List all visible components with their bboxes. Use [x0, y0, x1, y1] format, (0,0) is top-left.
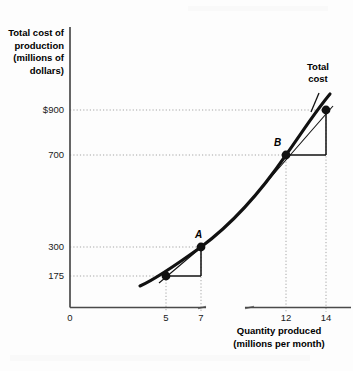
marker-14-900	[322, 106, 331, 115]
origin-label: 0	[60, 312, 80, 323]
x-axis-title-line-1: Quantity produced	[206, 325, 352, 338]
y-tick-label-700: 700	[20, 149, 64, 160]
y-tick-label-175: 175	[20, 270, 64, 281]
total-cost-curve	[140, 94, 330, 286]
y-tick-label-900: $900	[20, 104, 64, 115]
x-axis-title: Quantity produced (millions per month)	[206, 325, 352, 350]
series-label-line-2: cost	[296, 73, 340, 85]
y-axis-title: Total cost of production (millions of do…	[2, 27, 64, 77]
y-axis-title-line-4: dollars)	[2, 65, 64, 78]
data-point-markers	[162, 106, 331, 281]
x-axis-title-line-2: (millions per month)	[206, 338, 352, 351]
series-label-total-cost: Total cost	[296, 61, 340, 84]
marker-5-175	[162, 272, 171, 281]
y-axis-title-line-3: (millions of	[2, 52, 64, 65]
annotation-label-b: B	[274, 137, 281, 148]
x-tick-label-5: 5	[156, 312, 176, 323]
y-axis-title-line-1: Total cost of	[2, 27, 64, 40]
x-tick-label-12: 12	[276, 312, 296, 323]
x-tick-label-14: 14	[316, 312, 336, 323]
y-axis-title-line-2: production	[2, 40, 64, 53]
chart-figure: Total cost of production (millions of do…	[0, 0, 353, 371]
grid-lines	[70, 110, 326, 312]
marker-7-300	[197, 243, 206, 252]
y-tick-label-300: 300	[20, 241, 64, 252]
series-label-line-1: Total	[296, 61, 340, 73]
x-tick-label-7: 7	[191, 312, 211, 323]
annotation-label-a: A	[195, 229, 202, 240]
marker-12-700	[282, 151, 291, 160]
